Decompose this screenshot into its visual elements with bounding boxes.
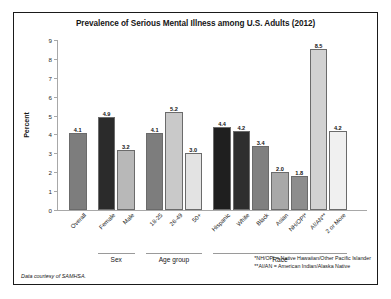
x-tick-label: 2 or More [325,212,347,234]
bar-value-label: 4.4 [218,121,226,127]
y-tick-label: 5 [49,112,52,119]
y-axis-line [57,40,58,210]
y-tick-label: 3 [49,150,52,157]
group-label: Sex [111,256,122,263]
y-tick-mark [54,78,57,79]
bar: 4.9 [98,117,116,210]
y-tick-mark [54,59,57,60]
y-tick-label: 6 [49,93,52,100]
bar-value-label: 4.2 [334,125,342,131]
bar: 4.1 [69,133,87,210]
y-tick-mark [54,40,57,41]
bar-value-label: 4.1 [74,127,82,133]
y-tick-label: 9 [49,37,52,44]
y-tick-mark [54,191,57,192]
bar-value-label: 3.4 [257,140,265,146]
footnotes: *NH/OPI = Native Hawaiian/Other Pacific … [254,255,371,271]
chart-frame: Prevalence of Serious Mental Illness amo… [13,12,378,285]
bar-value-label: 4.2 [237,125,245,131]
bar: 1.8 [291,176,309,210]
footnote-aian: **AI/AN = American Indian/Alaska Native [254,263,371,271]
y-tick-mark [54,134,57,135]
group-bracket-line [213,253,346,254]
x-tick-label: Asian [274,212,289,227]
y-tick-mark [54,153,57,154]
x-tick-label: 26-49 [168,212,183,227]
bar-value-label: 4.9 [103,111,111,117]
bar-value-label: 1.8 [295,170,303,176]
y-tick-label: 1 [49,188,52,195]
y-tick-mark [54,172,57,173]
bar: 4.2 [329,131,347,210]
x-tick-label: Hispanic [211,212,232,233]
bar-value-label: 8.5 [315,43,323,49]
x-tick-label: Overall [69,212,87,230]
x-tick-label: Female [97,212,115,230]
footnote-nhopi: *NH/OPI = Native Hawaiian/Other Pacific … [254,255,371,263]
bar: 3.4 [252,146,270,210]
y-tick-mark [54,116,57,117]
bar-value-label: 4.1 [151,127,159,133]
source-note: Data courtesy of SAMHSA. [21,273,86,279]
plot-area: Percent 0123456789 4.14.93.24.15.23.04.4… [57,40,367,210]
y-tick-label: 8 [49,55,52,62]
x-tick-label: NH/OPI* [288,212,309,233]
x-tick-label: Black [255,212,270,227]
y-tick-label: 2 [49,169,52,176]
y-tick-mark [54,210,57,211]
bar: 3.0 [185,153,203,210]
bar: 4.1 [146,133,164,210]
y-tick-label: 0 [49,207,52,214]
x-tick-label: 50+ [191,212,202,223]
x-tick-label: Male [122,212,135,225]
bar-value-label: 3.2 [122,144,130,150]
group-bracket-line [98,253,135,254]
bar-value-label: 5.2 [170,106,178,112]
bar: 3.2 [117,150,135,210]
y-tick-mark [54,97,57,98]
bar: 8.5 [310,49,328,210]
bar: 4.4 [213,127,231,210]
bar: 5.2 [165,112,183,210]
group-bracket-line [146,253,202,254]
x-axis-line [57,210,367,211]
x-tick-label: White [235,212,250,227]
x-tick-label: 18-25 [149,212,164,227]
y-axis-title: Percent [23,112,30,138]
y-tick-label: 7 [49,74,52,81]
group-label: Age group [159,256,189,263]
bar-value-label: 2.0 [276,166,284,172]
chart-title: Prevalence of Serious Mental Illness amo… [14,19,377,28]
bar: 4.2 [233,131,251,210]
bar: 2.0 [271,172,289,210]
y-tick-label: 4 [49,131,52,138]
bar-value-label: 3.0 [189,147,197,153]
